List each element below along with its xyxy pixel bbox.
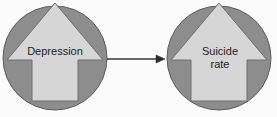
node-effect-label: Suicide rate [182,45,258,70]
connector-arrowhead-icon [156,55,165,63]
node-cause-label: Depression [10,45,100,58]
connector-cause-to-effect[interactable] [107,55,165,63]
diagram-canvas: Depression Suicide rate [0,0,277,117]
